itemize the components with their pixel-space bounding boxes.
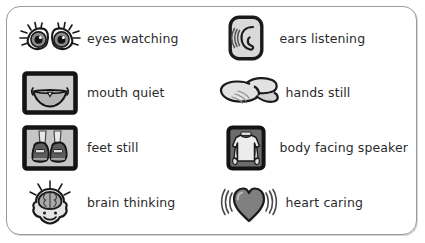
mouth-icon [19, 70, 81, 116]
list-item-body-facing-speaker: body facing speaker [214, 121, 415, 176]
list-item-hands-still: hands still [214, 66, 415, 121]
feet-icon [19, 125, 81, 171]
heart-icon [218, 180, 280, 226]
eyes-icon [19, 15, 81, 61]
hands-icon [218, 70, 280, 116]
list-item-ears-listening: ears listening [214, 11, 415, 66]
body-icon [218, 125, 274, 171]
list-item-heart-caring: heart caring [214, 175, 415, 230]
list-item-label: eyes watching [87, 32, 178, 46]
whole-body-listening-poster: eyes watching ears listening [6, 6, 417, 235]
list-item-eyes-watching: eyes watching [13, 11, 214, 66]
list-item-label: feet still [87, 141, 139, 155]
list-item-label: mouth quiet [87, 86, 165, 100]
list-item-brain-thinking: brain thinking [13, 175, 214, 230]
list-item-feet-still: feet still [13, 121, 214, 176]
list-item-label: body facing speaker [280, 141, 408, 155]
list-item-label: brain thinking [87, 196, 175, 210]
list-item-label: heart caring [286, 196, 364, 210]
icon-label-grid: eyes watching ears listening [7, 7, 416, 234]
list-item-label: ears listening [280, 32, 366, 46]
brain-icon [19, 180, 81, 226]
list-item-mouth-quiet: mouth quiet [13, 66, 214, 121]
list-item-label: hands still [286, 86, 351, 100]
ear-icon [218, 15, 274, 61]
